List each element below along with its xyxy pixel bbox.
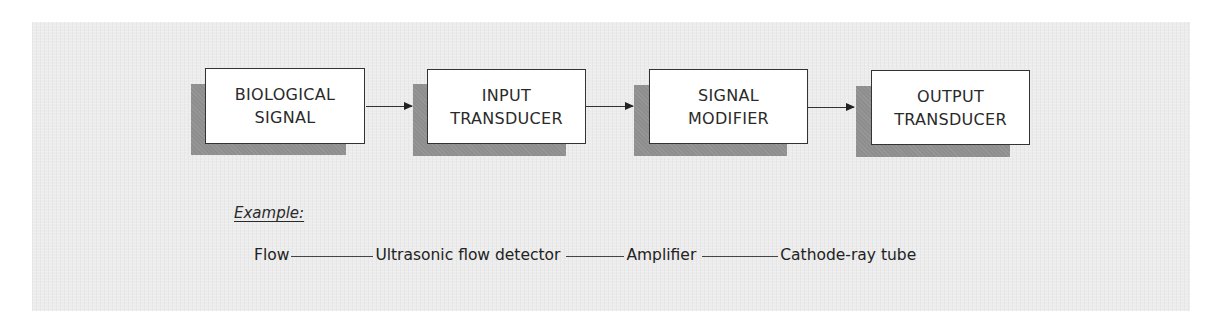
block-label-line: MODIFIER <box>688 107 769 130</box>
block-label-line: INPUT <box>482 84 531 107</box>
block-label-line: BIOLOGICAL <box>235 83 335 106</box>
block-biological-signal: BIOLOGICAL SIGNAL <box>205 68 365 144</box>
block-label-line: SIGNAL <box>698 84 759 107</box>
example-heading: Example: <box>234 204 304 222</box>
arrow-right-icon <box>366 106 412 107</box>
chain-item: Amplifier <box>626 246 696 264</box>
diagram-panel <box>32 22 1190 311</box>
block-output-transducer: OUTPUT TRANSDUCER <box>871 70 1030 145</box>
block-label-line: OUTPUT <box>917 85 984 108</box>
connector-line <box>566 256 624 257</box>
chain-item: Flow <box>254 246 289 264</box>
chain-item: Ultrasonic flow detector <box>375 246 560 264</box>
block-label-line: TRANSDUCER <box>894 108 1007 131</box>
block-label-line: SIGNAL <box>255 106 316 129</box>
connector-line <box>291 256 373 257</box>
connector-line <box>702 256 778 257</box>
arrow-right-icon <box>586 106 633 107</box>
arrow-right-icon <box>808 107 854 108</box>
example-chain: Flow Ultrasonic flow detector Amplifier … <box>254 246 916 264</box>
chain-item: Cathode-ray tube <box>780 246 916 264</box>
block-input-transducer: INPUT TRANSDUCER <box>427 69 586 144</box>
block-label-line: TRANSDUCER <box>450 107 563 130</box>
block-signal-modifier: SIGNAL MODIFIER <box>649 69 808 144</box>
